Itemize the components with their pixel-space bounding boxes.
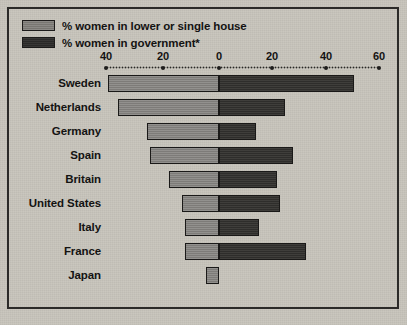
bar-row: Britain xyxy=(0,170,407,194)
legend-label-lower-house: % women in lower or single house xyxy=(62,20,247,32)
axis-tick-dot-4 xyxy=(324,66,328,70)
bar-row: United States xyxy=(0,194,407,218)
bar-segment-lower-house xyxy=(185,243,219,260)
bar-segment-lower-house xyxy=(118,99,219,116)
chart-legend: % women in lower or single house % women… xyxy=(22,17,352,51)
bar-segment-lower-house xyxy=(150,147,219,164)
bar-category-label: Germany xyxy=(0,125,101,137)
bar-row: Germany xyxy=(0,122,407,146)
bars-container: SwedenNetherlandsGermanySpainBritainUnit… xyxy=(0,74,407,304)
legend-swatch-light-icon xyxy=(22,20,55,31)
bar-category-label: Netherlands xyxy=(0,101,101,113)
bar-segment-government xyxy=(219,99,285,116)
bar-segment-lower-house xyxy=(185,219,219,236)
bar-category-label: United States xyxy=(0,197,101,209)
axis-line xyxy=(106,66,379,69)
bar-segment-government xyxy=(219,195,280,212)
bar-row: Sweden xyxy=(0,74,407,98)
legend-swatch-dark-icon xyxy=(22,37,55,48)
bar-row: France xyxy=(0,242,407,266)
bar-segment-lower-house xyxy=(182,195,219,212)
bar-segment-government xyxy=(219,75,354,92)
axis-tick-dot-0 xyxy=(104,66,108,70)
bar-segment-lower-house xyxy=(206,267,219,284)
axis-tick-label-2: 0 xyxy=(216,50,222,62)
bar-segment-government xyxy=(219,243,306,260)
x-axis: 40 20 0 20 40 60 xyxy=(0,50,407,74)
axis-tick-label-5: 60 xyxy=(373,50,385,62)
bar-segment-government xyxy=(219,219,259,236)
legend-item-lower-house: % women in lower or single house xyxy=(22,17,352,34)
axis-tick-dot-1 xyxy=(161,66,165,70)
axis-tick-dot-3 xyxy=(270,66,274,70)
bar-category-label: France xyxy=(0,245,101,257)
bar-category-label: Japan xyxy=(0,269,101,281)
bar-row: Japan xyxy=(0,266,407,290)
bidirectional-bar-chart: % women in lower or single house % women… xyxy=(0,0,407,325)
bar-segment-lower-house xyxy=(169,171,219,188)
axis-tick-dot-2 xyxy=(217,66,221,70)
bar-category-label: Britain xyxy=(0,173,101,185)
bar-category-label: Italy xyxy=(0,221,101,233)
axis-tick-dot-5 xyxy=(377,66,381,70)
bar-segment-government xyxy=(219,171,277,188)
bar-segment-lower-house xyxy=(108,75,219,92)
bar-segment-government xyxy=(219,147,293,164)
axis-tick-label-0: 40 xyxy=(100,50,112,62)
axis-tick-label-4: 40 xyxy=(320,50,332,62)
axis-tick-label-1: 20 xyxy=(157,50,169,62)
bar-category-label: Sweden xyxy=(0,77,101,89)
bar-category-label: Spain xyxy=(0,149,101,161)
legend-label-government: % women in government* xyxy=(62,37,200,49)
bar-row: Spain xyxy=(0,146,407,170)
bar-segment-lower-house xyxy=(147,123,219,140)
bar-row: Netherlands xyxy=(0,98,407,122)
axis-tick-label-3: 20 xyxy=(266,50,278,62)
bar-row: Italy xyxy=(0,218,407,242)
legend-item-government: % women in government* xyxy=(22,34,352,51)
bar-segment-government xyxy=(219,123,256,140)
